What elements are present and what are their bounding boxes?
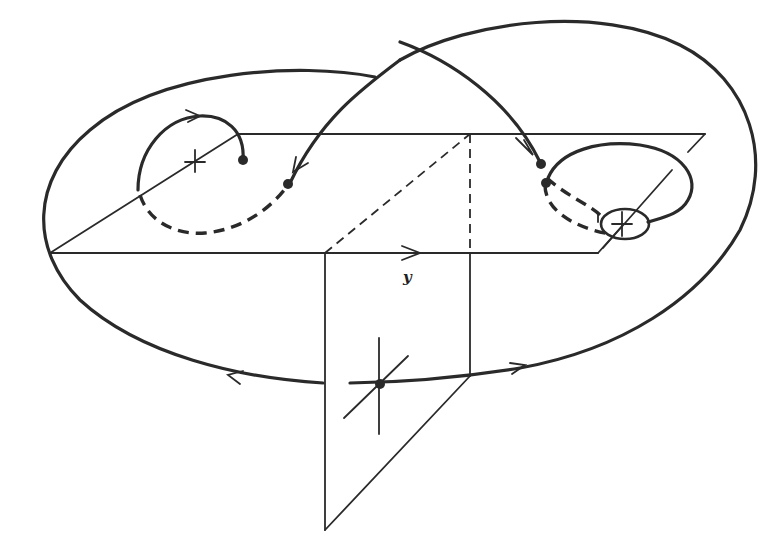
right-loop (545, 144, 692, 234)
outer-orbit (44, 21, 756, 383)
phase-portrait-diagram: y (0, 0, 775, 555)
vertical-plane (325, 134, 470, 530)
lower-equilibrium-cross-icon (344, 338, 408, 434)
left-spiral (138, 110, 288, 233)
right-trajectory-endpoint-lower (541, 178, 551, 188)
left-equilibrium-cross-icon (185, 150, 205, 172)
left-spiral-endpoint (238, 155, 248, 165)
right-trajectory-endpoint-upper (536, 159, 546, 169)
y-axis-label: y (402, 268, 413, 286)
right-equilibrium-cross-icon (612, 212, 632, 236)
left-trajectory-endpoint (283, 179, 293, 189)
